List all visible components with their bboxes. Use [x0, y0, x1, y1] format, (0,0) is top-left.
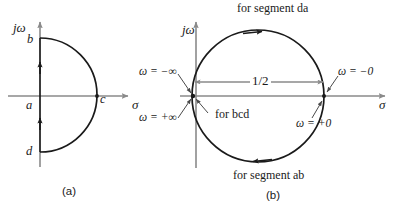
- panel-b-point-plus-zero-dot: [322, 94, 326, 98]
- panel-a-point-c-label: c: [100, 93, 106, 106]
- panel-b-label-omega-minus-zero: ω = −0: [338, 66, 373, 78]
- panel-a-point-d-label: d: [26, 145, 32, 158]
- panel-b-leader-bcd: [196, 99, 208, 113]
- panel-b-leader-omega-minus-zero: [327, 76, 338, 92]
- panel-b-origin-dot: [191, 94, 195, 98]
- panel-b-label-omega-plus-infinity: ω = +∞: [139, 112, 177, 124]
- panel-a-imag-axis-label: jω: [13, 21, 26, 34]
- panel-b-real-axis-label: σ: [379, 98, 385, 111]
- panel-b-leader-omega-plus-inf: [178, 99, 191, 118]
- panel-b-imag-axis-label: jω: [182, 23, 195, 36]
- figure-canvas: [0, 0, 403, 211]
- panel-b-label-segment-ab: for segment ab: [233, 169, 304, 181]
- panel-b-label-segment-da: for segment da: [237, 2, 308, 14]
- panel-a-point-b-label: b: [27, 33, 33, 46]
- figure-root: jω b a c d σ (a) jω σ for segment da for…: [0, 0, 403, 211]
- panel-b-diameter-label: 1/2: [250, 74, 271, 87]
- panel-b-leader-omega-minus-inf: [178, 74, 191, 93]
- panel-b-graphics: [178, 22, 385, 168]
- panel-a-contour-arc: [40, 38, 97, 152]
- panel-b-caption: (b): [266, 190, 280, 202]
- panel-b-label-omega-plus-zero: ω = +0: [296, 118, 331, 130]
- panel-a-caption: (a): [62, 186, 76, 198]
- panel-b-label-omega-minus-infinity: ω = −∞: [139, 66, 177, 78]
- panel-a-point-a-label: a: [26, 99, 32, 112]
- panel-a-real-axis-label: σ: [132, 98, 138, 111]
- panel-b-label-for-bcd: for bcd: [215, 108, 249, 120]
- panel-a-point-c-dot: [95, 94, 99, 98]
